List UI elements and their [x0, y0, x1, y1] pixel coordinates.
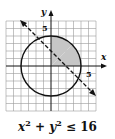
y-axis-arrow-icon — [49, 10, 54, 16]
caption-plus: + — [31, 120, 49, 134]
y-axis-label: y — [40, 7, 47, 17]
x-tick-label: 5 — [86, 69, 92, 79]
caption-relation: ≤ 16 — [62, 120, 97, 134]
x-axis-label: x — [100, 52, 107, 62]
inequality-caption: x2 + y2 ≤ 16 — [0, 118, 115, 134]
x-axis-arrow-icon — [101, 64, 107, 69]
dashed-boundary-line — [24, 24, 92, 92]
y-tick-label: 5 — [42, 23, 48, 33]
